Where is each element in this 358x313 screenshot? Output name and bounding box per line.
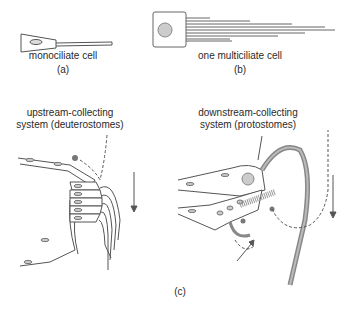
panel-b-label: (b) [180, 64, 300, 76]
downstream-collecting-diagram [178, 130, 336, 285]
multiciliate-caption: one multiciliate cell [180, 50, 300, 62]
panel-c-label: (c) [160, 286, 200, 298]
upstream-collecting-diagram [18, 135, 137, 270]
monociliate-caption: monociliate cell [18, 50, 108, 62]
multiciliate-cell [153, 12, 335, 47]
downstream-title-line1: downstream-collecting [188, 107, 308, 119]
downstream-title-line2: system (protostomes) [188, 119, 308, 131]
upstream-title-line1: upstream-collecting [10, 107, 130, 119]
panel-a-label: (a) [18, 64, 108, 76]
upstream-title-line2: system (deuterostomes) [10, 119, 130, 131]
cilia-diagram [0, 0, 358, 313]
